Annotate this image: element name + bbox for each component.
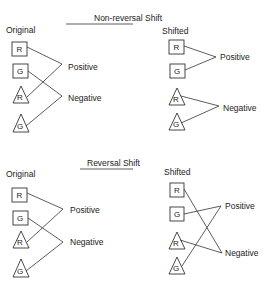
link-line [28,71,62,96]
link-line [26,242,63,271]
original-group: Original R G R G Positive Negative [6,25,102,132]
link-line [184,206,221,214]
panel-title: Reversal Shift [87,158,141,168]
outcome-negative: Negative [223,103,257,113]
stimulus-r: R [174,186,180,195]
shift-diagram: Non-reversal Shift Original R G R G Posi… [0,0,266,284]
original-group: Original R G R G Positive Negative [6,169,104,277]
panel-non-reversal: Non-reversal Shift Original R G R G Posi… [6,13,257,132]
stimulus-r: R [173,239,179,248]
shifted-label: Shifted [162,26,189,36]
shifted-group: Shifted R G R G Positive Negative [162,26,257,130]
link-line [182,206,221,266]
stimulus-r: R [17,191,23,200]
outcome-negative: Negative [225,248,259,258]
stimulus-g: G [17,267,23,276]
link-line [184,46,216,57]
link-line [27,209,63,242]
stimulus-g: G [173,120,179,129]
outcome-positive: Positive [225,201,255,211]
link-line [185,57,216,70]
outcome-positive: Positive [68,62,98,72]
link-line [27,47,62,64]
original-label: Original [6,25,35,35]
stimulus-g: G [17,67,23,76]
stimulus-r: R [173,95,179,104]
outcome-positive: Positive [220,52,250,62]
outcome-negative: Negative [68,93,102,103]
stimulus-r: R [174,43,180,52]
stimulus-g: G [17,122,23,131]
outcome-positive: Positive [70,205,100,215]
shifted-label: Shifted [164,167,191,177]
outcome-negative: Negative [70,237,104,247]
panel-reversal: Reversal Shift Original R G R G Positive… [6,158,259,277]
link-line [26,96,62,126]
link-line [27,193,63,209]
stimulus-r: R [17,238,23,247]
stimulus-g: G [174,210,180,219]
panel-title: Non-reversal Shift [94,13,163,23]
stimulus-r: R [17,93,23,102]
link-line [181,106,219,123]
stimulus-r: R [17,45,23,54]
stimulus-g: G [17,214,23,223]
stimulus-g: G [174,67,180,76]
original-label: Original [6,169,35,179]
shifted-group: Shifted R G R G Positive Negative [164,167,259,274]
link-line [28,218,63,242]
stimulus-g: G [173,264,179,273]
link-line [181,96,219,106]
